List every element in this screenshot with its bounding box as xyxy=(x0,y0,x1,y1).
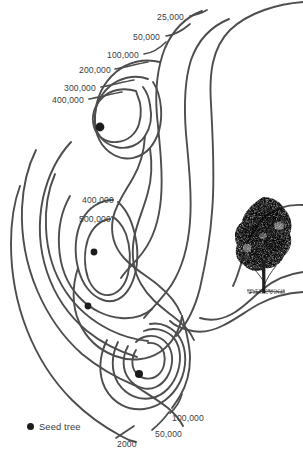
seed-tree-legend-dot-icon xyxy=(27,423,34,430)
seed-tree-dot xyxy=(96,123,105,132)
tree-ground-stipple xyxy=(247,289,285,294)
leader-line-50000-top xyxy=(166,24,190,36)
contour-label-50000-top: 50,000 xyxy=(133,33,160,42)
legend: Seed tree xyxy=(27,421,81,432)
tree-trunk xyxy=(262,260,265,293)
contour-label-100000-top: 100,000 xyxy=(107,51,139,60)
leader-line-2000-bottom xyxy=(116,426,134,438)
contour-label-50000-bottom: 50,000 xyxy=(155,430,182,439)
leader-line-50000-bottom xyxy=(152,412,169,430)
contour-label-200000: 200,000 xyxy=(79,66,111,75)
leader-line-400000-top xyxy=(89,92,122,99)
seed-tree-dot xyxy=(91,249,98,256)
contour-label-400000-top: 400,000 xyxy=(52,96,84,105)
contour-path-200000-spine xyxy=(133,148,194,340)
contour-path-50000-upper xyxy=(144,19,229,318)
leader-line-25000 xyxy=(190,10,207,16)
contour-label-25000: 25,000 xyxy=(157,13,184,22)
contour-label-300000: 300,000 xyxy=(64,84,96,93)
seed-dispersal-contour-map: 25,000 50,000 100,000 200,000 300,000 40… xyxy=(0,0,303,455)
legend-label-seed-tree: Seed tree xyxy=(39,421,81,432)
tree-illustration xyxy=(233,196,295,304)
contour-label-2000-bottom: 2000 xyxy=(117,440,137,449)
contour-label-500000-mid: 500,000 xyxy=(79,215,111,224)
contour-label-100000-bottom: 100,000 xyxy=(172,414,204,423)
contour-label-400000-mid: 400,000 xyxy=(82,196,114,205)
seed-tree-dot xyxy=(85,303,92,310)
seed-tree-dot xyxy=(135,370,143,378)
